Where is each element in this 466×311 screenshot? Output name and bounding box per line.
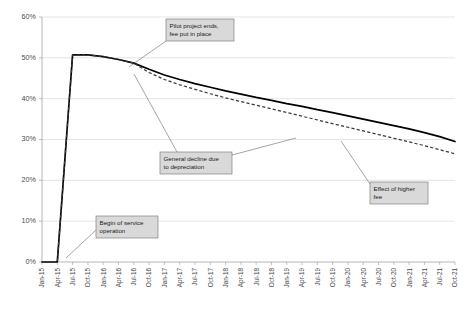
y-axis-tick-label: 30% — [22, 134, 37, 143]
y-axis-tick-label: 40% — [22, 94, 37, 103]
y-axis-labels: 0%10%20%30%40%50%60% — [22, 12, 37, 266]
x-axis-tick-label: Jul-20 — [375, 268, 382, 286]
y-axis-tick-label: 0% — [26, 257, 37, 266]
annotation-text-line: fee put in place — [170, 30, 213, 37]
x-axis-tick-label: Apr-21 — [421, 268, 429, 288]
x-axis-tick-label: Jan-15 — [38, 268, 45, 288]
leader-line-pilot-project-ends — [129, 41, 166, 67]
y-axis-ticks — [39, 17, 42, 262]
annotation-general-decline: General decline dueto depreciation — [160, 152, 232, 174]
chart-container: 0%10%20%30%40%50%60% Jan-15Apr-15Jul-15O… — [0, 0, 466, 311]
annotation-text-line: operation — [100, 227, 126, 234]
x-axis-tick-label: Oct-18 — [268, 268, 275, 288]
annotation-begin-of-service-operation: Begin of serviceoperation — [96, 216, 158, 238]
x-axis-tick-label: Jul-17 — [191, 268, 198, 286]
x-axis-tick-label: Jan-17 — [161, 268, 168, 288]
x-axis-tick-label: Apr-20 — [360, 268, 368, 288]
annotation-text-line: Pilot project ends, — [170, 22, 219, 29]
x-axis-tick-label: Jul-19 — [314, 268, 321, 286]
annotation-text-line: Begin of service — [100, 219, 145, 226]
x-axis-tick-label: Oct-21 — [451, 268, 458, 288]
x-axis-tick-label: Apr-16 — [115, 268, 123, 288]
x-axis-tick-label: Jan-18 — [222, 268, 229, 288]
annotation-boxes: Pilot project ends,fee put in placeGener… — [96, 19, 428, 238]
x-axis-ticks — [42, 262, 455, 265]
x-axis-tick-label: Jan-21 — [406, 268, 413, 288]
x-axis-tick-label: Jul-21 — [436, 268, 443, 286]
x-axis-tick-label: Oct-20 — [390, 268, 397, 288]
annotation-text-line: General decline due — [164, 155, 220, 162]
x-axis-tick-label: Oct-15 — [84, 268, 91, 288]
x-axis-tick-label: Jan-19 — [283, 268, 290, 288]
leader-line-begin-of-service-operation — [66, 230, 96, 258]
x-axis-tick-label: Jan-16 — [100, 268, 107, 288]
line-chart: 0%10%20%30%40%50%60% Jan-15Apr-15Jul-15O… — [0, 0, 466, 311]
annotation-text-line: to depreciation — [164, 163, 205, 170]
x-axis-tick-label: Oct-19 — [329, 268, 336, 288]
annotation-text-line: fee — [374, 193, 383, 200]
y-axis-tick-label: 50% — [22, 53, 37, 62]
x-axis-tick-label: Apr-15 — [54, 268, 62, 288]
x-axis-tick-label: Oct-17 — [207, 268, 214, 288]
leader-line-effect-of-higher-fee — [341, 141, 370, 184]
x-axis-tick-label: Apr-19 — [298, 268, 306, 288]
x-axis-tick-label: Apr-17 — [176, 268, 184, 288]
x-axis-tick-label: Jul-18 — [253, 268, 260, 286]
x-axis-tick-label: Oct-16 — [145, 268, 152, 288]
x-axis-tick-label: Jan-20 — [344, 268, 351, 288]
x-axis-tick-label: Jul-16 — [130, 268, 137, 286]
leader-line-general-decline-second — [232, 138, 296, 155]
annotation-effect-of-higher-fee: Effect of higherfee — [370, 182, 428, 204]
x-axis-labels: Jan-15Apr-15Jul-15Oct-15Jan-16Apr-16Jul-… — [38, 268, 458, 288]
y-axis-tick-label: 60% — [22, 12, 37, 21]
x-axis-tick-label: Apr-18 — [237, 268, 245, 288]
x-axis-tick-label: Jul-15 — [69, 268, 76, 286]
y-axis-tick-label: 20% — [22, 175, 37, 184]
leader-line-general-decline — [134, 74, 177, 152]
y-axis-tick-label: 10% — [22, 216, 37, 225]
annotation-pilot-project-ends: Pilot project ends,fee put in place — [166, 19, 234, 41]
annotation-text-line: Effect of higher — [374, 185, 416, 192]
